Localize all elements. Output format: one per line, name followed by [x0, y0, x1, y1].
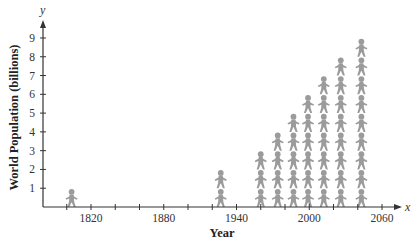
person-icon: [318, 95, 330, 113]
y-axis-arrow-icon: [40, 20, 46, 28]
person-icon: [318, 133, 330, 151]
person-stack-1804: [66, 189, 78, 207]
person-icon: [335, 95, 347, 113]
person-icon: [355, 170, 367, 188]
person-stack-2026: [335, 57, 347, 207]
person-icon: [302, 170, 314, 188]
person-icon: [335, 114, 347, 132]
person-icon: [355, 133, 367, 151]
person-icon: [66, 189, 78, 207]
y-tick-label: 4: [29, 126, 35, 138]
person-icon: [355, 114, 367, 132]
person-stack-1974: [272, 133, 284, 207]
person-icon: [318, 189, 330, 207]
person-icon: [302, 114, 314, 132]
x-tick-label: 1820: [80, 212, 103, 224]
population-pictograph-chart: 18201880194020002060 123456789 x y: [0, 0, 419, 246]
x-axis-symbol: x: [404, 200, 411, 214]
y-tick-label: 2: [29, 163, 35, 175]
person-icon-stacks: [66, 39, 368, 207]
person-icon: [287, 114, 299, 132]
person-icon: [215, 170, 227, 188]
person-icon: [287, 133, 299, 151]
person-icon: [255, 151, 267, 169]
person-icon: [302, 95, 314, 113]
x-axis-arrow-icon: [394, 204, 402, 210]
person-icon: [287, 170, 299, 188]
person-icon: [355, 189, 367, 207]
person-icon: [318, 76, 330, 94]
person-icon: [302, 189, 314, 207]
y-tick-label: 5: [29, 107, 35, 119]
person-stack-1927: [215, 170, 227, 207]
person-icon: [355, 57, 367, 75]
person-icon: [355, 39, 367, 57]
person-icon: [302, 133, 314, 151]
x-tick-label: 2060: [371, 212, 394, 224]
person-icon: [272, 189, 284, 207]
y-tick-labels: 123456789: [29, 32, 35, 194]
y-tick-label: 7: [29, 70, 35, 82]
person-icon: [287, 189, 299, 207]
person-icon: [272, 151, 284, 169]
x-tick-label: 2000: [298, 212, 321, 224]
x-tick-label: 1880: [152, 212, 175, 224]
person-icon: [335, 57, 347, 75]
y-axis-title: World Population (billions): [7, 33, 22, 203]
y-tick-label: 3: [29, 145, 35, 157]
y-tick-label: 9: [29, 32, 35, 44]
person-icon: [318, 151, 330, 169]
y-tick-label: 8: [29, 51, 35, 63]
y-tick-label: 1: [29, 182, 35, 194]
person-stack-2043: [355, 39, 367, 207]
person-icon: [335, 151, 347, 169]
x-axis-title: Year: [190, 226, 254, 241]
person-icon: [287, 151, 299, 169]
person-icon: [335, 76, 347, 94]
person-icon: [355, 76, 367, 94]
person-icon: [272, 170, 284, 188]
person-icon: [335, 170, 347, 188]
y-axis-symbol: y: [39, 3, 46, 17]
person-icon: [335, 133, 347, 151]
person-icon: [215, 189, 227, 207]
person-icon: [318, 114, 330, 132]
person-stack-1960: [255, 151, 267, 207]
person-icon: [355, 95, 367, 113]
person-stack-1987: [287, 114, 299, 207]
person-stack-2012: [318, 76, 330, 207]
person-icon: [318, 170, 330, 188]
person-icon: [302, 151, 314, 169]
y-tick-label: 6: [29, 88, 35, 100]
x-tick-labels: 18201880194020002060: [80, 212, 394, 224]
person-icon: [335, 189, 347, 207]
person-icon: [272, 133, 284, 151]
person-icon: [355, 151, 367, 169]
person-icon: [255, 170, 267, 188]
person-stack-1999: [302, 95, 314, 207]
x-tick-label: 1940: [225, 212, 248, 224]
